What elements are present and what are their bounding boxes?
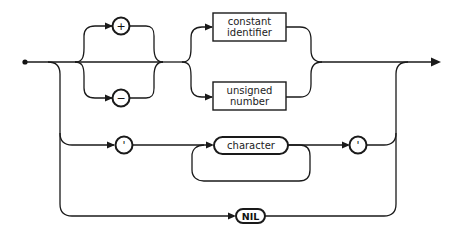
arrowhead-icon bbox=[206, 142, 214, 149]
left-rail bbox=[48, 62, 72, 216]
minus-terminal: − bbox=[113, 90, 130, 107]
constant-identifier-box: constant identifier bbox=[213, 13, 286, 41]
svg-text:': ' bbox=[122, 139, 125, 152]
const-branch-in bbox=[182, 27, 212, 62]
svg-text:identifier: identifier bbox=[227, 27, 273, 38]
svg-text:+: + bbox=[116, 20, 125, 33]
minus-branch-out bbox=[130, 62, 163, 98]
svg-text:constant: constant bbox=[228, 16, 272, 27]
number-branch-out bbox=[286, 62, 322, 97]
const-branch-out bbox=[286, 27, 322, 62]
svg-text:NIL: NIL bbox=[242, 211, 260, 222]
character-box: character bbox=[214, 137, 288, 154]
unsigned-number-box: unsigned number bbox=[213, 82, 286, 110]
nil-branch-out bbox=[265, 204, 396, 216]
plus-branch-out bbox=[130, 26, 163, 62]
exit-arrow-icon bbox=[431, 58, 441, 67]
plus-terminal: + bbox=[113, 18, 130, 35]
right-rail bbox=[396, 62, 408, 204]
number-branch-in bbox=[182, 62, 212, 97]
svg-text:character: character bbox=[227, 140, 276, 151]
svg-text:−: − bbox=[116, 92, 125, 105]
arrowhead-icon bbox=[205, 94, 213, 101]
arrowhead-icon bbox=[205, 24, 213, 31]
svg-text:unsigned: unsigned bbox=[227, 85, 273, 96]
quote-branch-in bbox=[60, 133, 114, 145]
minus-branch-in bbox=[75, 62, 112, 98]
arrowhead-icon bbox=[228, 213, 236, 220]
quote-close-terminal: ' bbox=[350, 137, 367, 154]
svg-text:number: number bbox=[230, 96, 270, 107]
nil-terminal: NIL bbox=[236, 209, 265, 223]
arrowhead-icon bbox=[107, 142, 115, 149]
svg-text:': ' bbox=[356, 139, 359, 152]
quote-branch-out bbox=[367, 133, 397, 145]
quote-open-terminal: ' bbox=[116, 137, 133, 154]
syntax-diagram: + − constant identifier unsigned number … bbox=[0, 0, 462, 238]
plus-branch-in bbox=[75, 26, 112, 62]
